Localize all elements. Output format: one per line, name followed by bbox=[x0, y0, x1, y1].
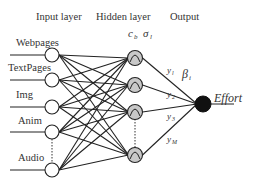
hidden-output-subscript: l bbox=[172, 70, 174, 76]
input-node bbox=[45, 163, 59, 177]
header-output: Output bbox=[170, 11, 199, 22]
center-subscript: b bbox=[134, 33, 138, 41]
input-node bbox=[45, 125, 59, 139]
hidden-node bbox=[128, 78, 143, 93]
hidden-params: c b σ l bbox=[128, 27, 152, 41]
input-node bbox=[45, 73, 59, 87]
input-label: Webpages bbox=[16, 37, 59, 48]
hidden-node-circle bbox=[128, 105, 143, 120]
input-label: TextPages bbox=[8, 62, 51, 73]
hidden-node-circle bbox=[128, 51, 143, 66]
sigma-subscript: l bbox=[150, 33, 152, 41]
hidden-output-subscript: 2 bbox=[172, 94, 175, 100]
hidden-node-circle bbox=[128, 148, 143, 163]
input-node bbox=[45, 100, 59, 114]
header-input-layer: Input layer bbox=[36, 11, 82, 22]
weight-beta-subscript: i bbox=[189, 74, 191, 82]
edge-input-0-hidden-0 bbox=[59, 55, 129, 58]
input-label: Audio bbox=[18, 152, 44, 163]
sigma-symbol: σ bbox=[143, 27, 149, 39]
hidden-output-subscript: 3 bbox=[171, 116, 175, 122]
header-hidden-layer: Hidden layer bbox=[96, 11, 151, 22]
hidden-node bbox=[128, 148, 143, 163]
hidden-node bbox=[128, 51, 143, 66]
hidden-output-label: y bbox=[166, 111, 171, 121]
rbf-network-diagram: Input layer Hidden layer Output c b σ l … bbox=[0, 0, 256, 188]
hidden-output-subscript: M bbox=[171, 139, 178, 145]
input-node bbox=[45, 48, 59, 62]
output-label: Effort bbox=[213, 91, 243, 105]
output-node bbox=[195, 96, 211, 112]
hidden-node bbox=[128, 105, 143, 120]
hidden-output-label: y bbox=[166, 65, 171, 75]
hidden-output-label: y bbox=[166, 89, 171, 99]
weight-beta-symbol: β bbox=[181, 67, 188, 81]
hidden-output-label: y bbox=[166, 134, 171, 144]
center-symbol: c bbox=[128, 27, 133, 39]
input-label: Anim bbox=[18, 115, 42, 126]
hidden-node-circle bbox=[128, 78, 143, 93]
edge-input-2-hidden-0 bbox=[59, 58, 129, 107]
input-label: Img bbox=[16, 89, 34, 100]
